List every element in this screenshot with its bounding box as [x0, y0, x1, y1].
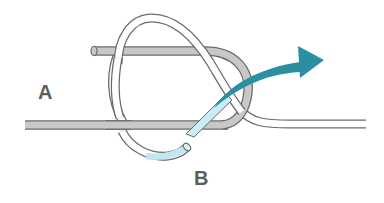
label-rope-a: A [38, 82, 52, 102]
knot-diagram: A B [0, 0, 384, 203]
rope-b-loop-front [115, 18, 242, 157]
rope-b-working-end [186, 94, 232, 137]
knot-illustration [0, 0, 384, 203]
rope-b-standing-part [240, 110, 366, 124]
label-rope-b: B [194, 168, 208, 188]
